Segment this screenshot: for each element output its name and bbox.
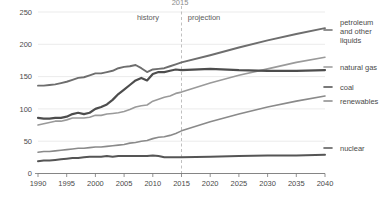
x-tick-label-2035: 2035 (288, 179, 305, 188)
legend-label-petroleum-and-other-liquids: petroleum (340, 18, 373, 27)
history-annotation-label: history (137, 13, 159, 22)
y-tick-label-150: 150 (19, 72, 32, 81)
legend-label-natural-gas: natural gas (340, 63, 377, 72)
y-tick-label-0: 0 (28, 169, 32, 178)
y-tick-label-200: 200 (19, 40, 32, 49)
x-axis-tick-labels: 1990199520002005201020152020202520302035… (30, 179, 334, 188)
legend-label-renewables: renewables (340, 97, 379, 106)
legend-label-coal: coal (340, 83, 354, 92)
legend-label-petroleum-and-other-liquids: liquids (340, 36, 362, 45)
clipped-top-text: 2015 (172, 0, 189, 7)
y-tick-label-100: 100 (19, 105, 32, 114)
y-tick-label-250: 250 (19, 8, 32, 17)
y-tick-label-50: 50 (24, 137, 32, 146)
chart-screenshot: 050100150200250 199019952000200520102015… (0, 0, 382, 199)
legend-label-nuclear: nuclear (340, 144, 365, 153)
x-tick-label-2000: 2000 (87, 179, 104, 188)
legend-label-petroleum-and-other-liquids: and other (340, 27, 372, 36)
x-tick-label-2020: 2020 (202, 179, 219, 188)
x-tick-label-2005: 2005 (116, 179, 133, 188)
x-tick-label-2010: 2010 (144, 179, 161, 188)
x-axis-tick-marks (38, 174, 325, 178)
projection-annotation-label: projection (188, 13, 221, 22)
x-tick-label-2015: 2015 (173, 179, 190, 188)
y-axis-tick-labels: 050100150200250 (19, 8, 32, 179)
x-tick-label-1990: 1990 (30, 179, 47, 188)
x-tick-label-2040: 2040 (317, 179, 334, 188)
x-tick-label-2025: 2025 (231, 179, 248, 188)
energy-consumption-line-chart: 050100150200250 199019952000200520102015… (0, 0, 382, 199)
x-tick-label-1995: 1995 (58, 179, 75, 188)
x-tick-label-2030: 2030 (259, 179, 276, 188)
series-legend: petroleumand otherliquidsnatural gascoal… (324, 18, 379, 153)
